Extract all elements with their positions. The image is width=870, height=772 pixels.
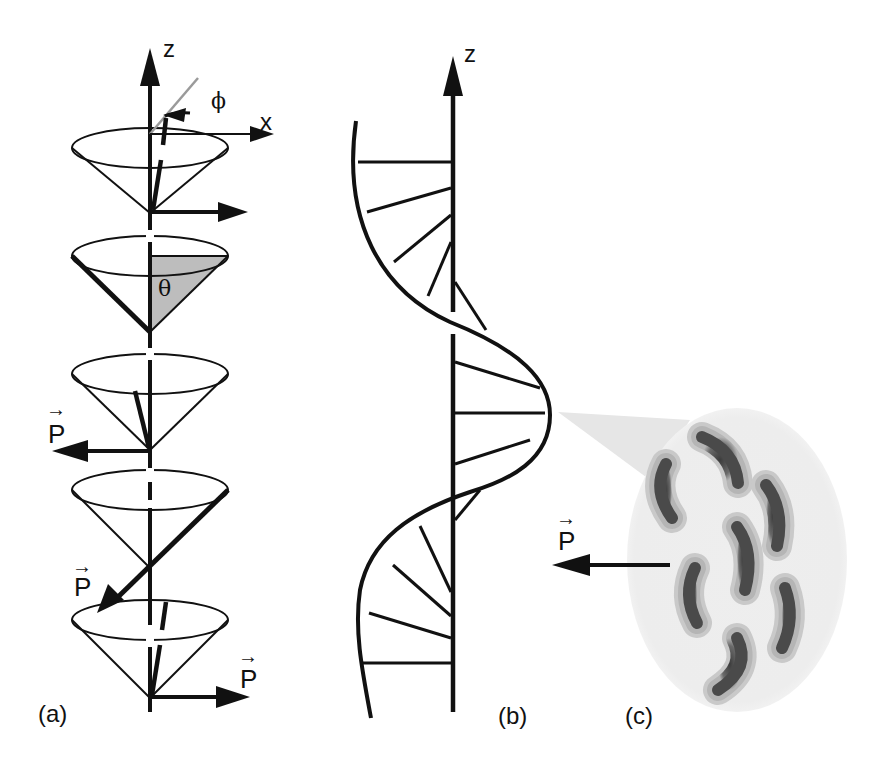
cone-5: → P bbox=[72, 600, 258, 708]
panel-a: z x ϕ bbox=[38, 35, 274, 727]
cone-3: → P bbox=[46, 348, 228, 462]
p-vector-4 bbox=[118, 490, 228, 597]
molecule bbox=[689, 568, 697, 623]
z-axis-arrowhead-b bbox=[443, 56, 463, 96]
p-vector-1-arrowhead bbox=[218, 202, 248, 222]
p-label-c: P bbox=[558, 526, 575, 556]
p-vector-c-arrowhead bbox=[552, 554, 590, 576]
molecule bbox=[737, 527, 749, 590]
p-vector-4-arrowhead bbox=[97, 584, 124, 613]
phi-label: ϕ bbox=[211, 88, 226, 113]
panel-a-label: (a) bbox=[38, 700, 67, 727]
molecule bbox=[660, 464, 672, 518]
molecule bbox=[766, 485, 779, 546]
z-axis-arrowhead-a bbox=[140, 48, 160, 86]
liquid-crystal-figure: z x ϕ bbox=[0, 0, 870, 772]
phi-reference-line bbox=[150, 78, 198, 134]
panel-b: z (b) bbox=[353, 40, 550, 729]
p-label-4: P bbox=[74, 572, 91, 602]
p-label-3-arrow: → bbox=[46, 398, 66, 420]
cone-1: x ϕ bbox=[72, 78, 274, 222]
x-axis-label: x bbox=[260, 108, 272, 135]
panel-c: → P (c) bbox=[552, 408, 847, 729]
panel-c-label: (c) bbox=[625, 702, 653, 729]
theta-label: θ bbox=[158, 276, 171, 301]
molecule bbox=[782, 588, 790, 648]
p-label-5: P bbox=[240, 664, 257, 694]
z-axis-label-a: z bbox=[163, 35, 175, 62]
p-label-3: P bbox=[48, 419, 65, 449]
panel-b-label: (b) bbox=[498, 702, 527, 729]
z-axis-label-b: z bbox=[464, 40, 476, 67]
